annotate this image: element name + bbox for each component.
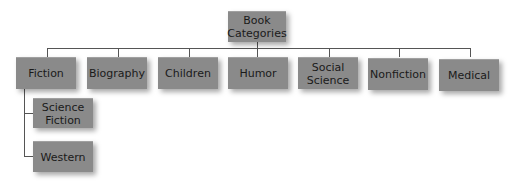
node-label: Fiction: [28, 67, 64, 80]
connector-social-science: [329, 48, 330, 57]
node-label: Western: [40, 151, 85, 164]
node-fiction: Fiction: [16, 57, 76, 89]
node-book-categories: Book Categories: [228, 11, 286, 42]
connector-biography: [118, 48, 119, 57]
connector-medical: [470, 48, 471, 57]
connector-fiction: [47, 48, 48, 57]
connector-humor: [257, 48, 258, 57]
node-western: Western: [33, 141, 93, 172]
node-label: Social Science: [306, 61, 350, 87]
connector-nonfiction: [399, 48, 400, 57]
node-label: Science Fiction: [39, 101, 87, 127]
fiction-children-connector-vertical: [24, 89, 25, 156]
node-medical: Medical: [439, 59, 499, 91]
node-social-science: Social Science: [298, 57, 358, 89]
node-science-fiction: Science Fiction: [33, 98, 93, 128]
node-nonfiction: Nonfiction: [368, 58, 428, 90]
level1-connector-horizontal: [47, 48, 471, 49]
node-label: Nonfiction: [370, 68, 426, 81]
node-label: Children: [165, 67, 211, 80]
node-label: Medical: [448, 69, 490, 82]
connector-children: [189, 48, 190, 57]
node-humor: Humor: [228, 57, 288, 89]
node-biography: Biography: [87, 57, 147, 89]
node-label: Humor: [239, 67, 276, 80]
node-label: Biography: [89, 67, 145, 80]
node-label: Book Categories: [227, 14, 286, 40]
node-children: Children: [158, 57, 218, 89]
connector-science-fiction: [24, 113, 33, 114]
connector-western: [24, 156, 33, 157]
